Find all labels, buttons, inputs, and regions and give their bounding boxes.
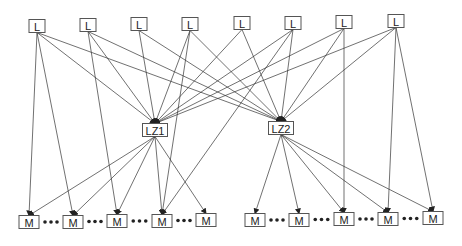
node-label: M (294, 215, 303, 227)
node-m1: M (19, 216, 39, 229)
dot-icon (269, 218, 273, 222)
dot-icon (326, 218, 330, 222)
ellipsis-dots (176, 219, 192, 223)
dot-icon (281, 218, 285, 222)
node-m8: M (334, 213, 354, 226)
node-label: M (428, 213, 437, 225)
dot-icon (138, 219, 142, 223)
edge-l1-to-lz2 (37, 33, 281, 122)
nodes-layer: LLLLLLLLLZ1LZ2MMMMMMMMMM (19, 15, 443, 229)
edge-lz1-to-m4 (155, 137, 162, 215)
edges-layer (29, 28, 433, 216)
edge-lz2-to-m10 (281, 135, 433, 212)
dot-icon (144, 219, 148, 223)
edge-l8-to-m9 (388, 28, 396, 213)
node-l2: L (80, 19, 96, 32)
ellipsis-dots (358, 217, 374, 221)
edge-l1-to-m2 (37, 33, 73, 216)
edge-lz1-to-m2 (73, 137, 155, 216)
edge-l2-to-lz1 (88, 32, 155, 124)
ellipsis-dots (43, 220, 59, 224)
ellipsis-dots (87, 220, 103, 224)
dot-icon (409, 217, 413, 221)
node-m4: M (152, 215, 172, 228)
edge-l1-to-m1 (29, 33, 37, 216)
node-l8: L (388, 15, 404, 28)
edge-l8-to-lz2 (281, 28, 396, 122)
ellipsis-dots (402, 217, 418, 221)
node-label: LZ1 (146, 125, 165, 137)
dot-icon (358, 217, 362, 221)
dot-icon (313, 218, 317, 222)
node-label: M (250, 215, 259, 227)
node-m7: M (289, 214, 309, 227)
dot-icon (364, 217, 368, 221)
node-label: L (239, 18, 245, 30)
edge-l5-to-lz1 (155, 30, 242, 124)
node-l5: L (234, 17, 250, 30)
dot-icon (99, 220, 103, 224)
node-lz2: LZ2 (269, 122, 294, 135)
node-label: M (201, 215, 210, 227)
dot-icon (176, 219, 180, 223)
node-label: M (112, 216, 121, 228)
dot-icon (415, 217, 419, 221)
dot-icon (55, 220, 59, 224)
edge-l3-to-lz1 (139, 31, 155, 124)
node-label: L (34, 21, 40, 33)
node-label: L (136, 19, 142, 31)
node-l3: L (131, 18, 147, 31)
dot-icon (182, 219, 186, 223)
edge-l4-to-m4 (162, 31, 190, 215)
node-label: M (24, 217, 33, 229)
dot-icon (275, 218, 279, 222)
layered-graph-diagram: LLLLLLLLLZ1LZ2MMMMMMMMMM (0, 0, 462, 246)
dot-icon (402, 217, 406, 221)
edge-lz1-to-m5 (155, 137, 206, 214)
node-m3: M (107, 215, 127, 228)
edge-l1-to-lz1 (37, 33, 155, 124)
node-l7: L (336, 16, 352, 29)
dot-icon (49, 220, 53, 224)
node-m6: M (245, 214, 265, 227)
node-m2: M (63, 216, 83, 229)
node-label: L (85, 20, 91, 32)
edge-l7-to-lz2 (281, 29, 344, 122)
node-l1: L (29, 20, 45, 33)
dot-icon (370, 217, 374, 221)
node-label: L (290, 18, 296, 30)
node-label: LZ2 (272, 123, 291, 135)
dot-icon (87, 220, 91, 224)
node-l6: L (285, 17, 301, 30)
node-l4: L (182, 18, 198, 31)
edge-lz2-to-m7 (281, 135, 299, 214)
ellipsis-dots (313, 218, 329, 222)
node-lz1: LZ1 (143, 124, 168, 137)
node-m5: M (196, 214, 216, 227)
node-label: L (341, 17, 347, 29)
node-label: M (383, 214, 392, 226)
node-label: L (393, 16, 399, 28)
dot-icon (131, 219, 135, 223)
ellipsis-dots (131, 219, 147, 223)
edge-lz2-to-m6 (255, 135, 281, 214)
dot-icon (320, 218, 324, 222)
node-label: M (339, 214, 348, 226)
node-m10: M (423, 212, 443, 225)
ellipsis-dots (269, 218, 285, 222)
dot-icon (93, 220, 97, 224)
ellipsis-dots-layer (43, 217, 418, 224)
node-label: M (68, 217, 77, 229)
node-m9: M (378, 213, 398, 226)
edge-l4-to-lz2 (190, 31, 281, 122)
dot-icon (43, 220, 47, 224)
dot-icon (188, 219, 192, 223)
node-label: L (187, 19, 193, 31)
edge-l8-to-m10 (396, 28, 433, 212)
node-label: M (157, 216, 166, 228)
